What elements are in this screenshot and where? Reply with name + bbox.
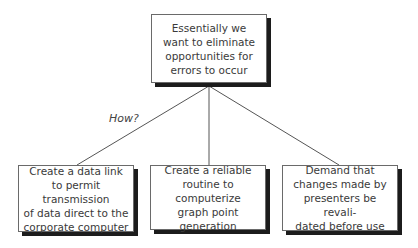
root-node: Essentially we want to eliminate opportu… [151,14,267,83]
connector-left [77,86,209,165]
child-node-text: Create a data link to permit transmissio… [23,164,129,234]
edge-label-how: How? [109,112,139,125]
child-node-revalidation: Demand that changes made by presenters b… [282,165,398,231]
child-node-text: Demand that changes made by presenters b… [287,163,393,233]
child-node-text: Create a reliable routine to computerize… [155,163,261,233]
root-node-text: Essentially we want to eliminate opportu… [163,21,255,77]
connector-right [209,86,339,165]
child-node-data-link: Create a data link to permit transmissio… [18,165,134,232]
child-node-reliable-routine: Create a reliable routine to computerize… [150,165,266,230]
